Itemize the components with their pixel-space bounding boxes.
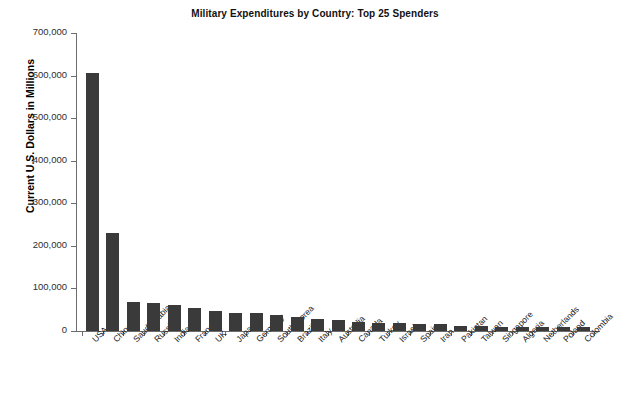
bar xyxy=(270,315,283,331)
chart-title: Military Expenditures by Country: Top 25… xyxy=(0,8,630,19)
plot-area: 700,000600,000500,000400,000300,000200,0… xyxy=(76,33,600,331)
y-tick-label: 0 xyxy=(62,324,67,335)
chart-container: Military Expenditures by Country: Top 25… xyxy=(0,0,630,397)
y-tick-mark xyxy=(71,203,76,204)
bar xyxy=(127,302,140,331)
bar xyxy=(168,305,181,331)
y-tick-mark xyxy=(71,246,76,247)
y-tick-label: 200,000 xyxy=(33,239,67,250)
y-tick-mark xyxy=(71,161,76,162)
bar xyxy=(229,313,242,331)
bar xyxy=(147,303,160,331)
bar xyxy=(106,233,119,331)
cropped-header-text xyxy=(0,0,630,2)
bar xyxy=(86,73,99,331)
bar xyxy=(250,313,263,331)
y-tick-mark xyxy=(71,288,76,289)
y-tick-mark xyxy=(71,76,76,77)
y-tick-label: 700,000 xyxy=(33,26,67,37)
y-axis-label: Current U.S. Dollars in Millions xyxy=(24,6,36,266)
y-tick-label: 500,000 xyxy=(33,111,67,122)
bar xyxy=(188,308,201,331)
y-tick-label: 400,000 xyxy=(33,154,67,165)
y-tick-label: 600,000 xyxy=(33,69,67,80)
y-tick-label: 100,000 xyxy=(33,281,67,292)
x-axis-tick xyxy=(82,331,83,336)
y-tick-label: 300,000 xyxy=(33,196,67,207)
y-axis-line xyxy=(76,33,77,331)
x-axis-line xyxy=(76,331,600,332)
y-tick-mark xyxy=(71,118,76,119)
y-tick-mark xyxy=(71,33,76,34)
bar xyxy=(209,311,222,331)
y-tick-mark xyxy=(71,331,76,332)
